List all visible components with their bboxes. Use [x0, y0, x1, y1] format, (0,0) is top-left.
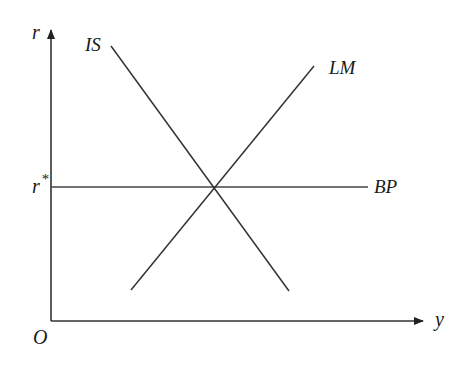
lm-curve: [131, 66, 314, 290]
is-label: IS: [84, 34, 101, 55]
y-axis-label: y: [433, 308, 444, 331]
origin-label: O: [33, 326, 47, 348]
r-star-label: r: [32, 175, 40, 197]
r-axis-label: r: [32, 21, 40, 43]
lm-label: LM: [328, 57, 357, 78]
is-lm-bp-diagram: r IS LM BP r * O y: [0, 0, 476, 368]
r-star-superscript: *: [41, 171, 49, 187]
bp-label: BP: [374, 176, 398, 197]
is-curve: [111, 46, 289, 291]
